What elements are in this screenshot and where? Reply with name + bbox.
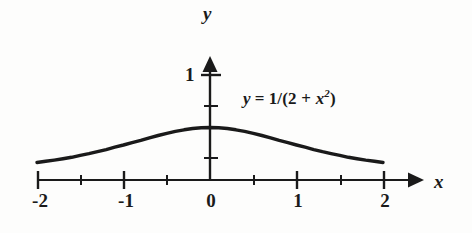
graph-svg bbox=[0, 0, 472, 233]
equation-equals: = bbox=[255, 89, 265, 108]
x-tick-label-neg2: -2 bbox=[28, 191, 52, 210]
x-tick-label-neg1: -1 bbox=[114, 191, 138, 210]
equation-annotation: y=1/(2 + x2) bbox=[243, 88, 336, 107]
y-axis-arrowhead bbox=[203, 56, 218, 72]
x-tick-label-1: 1 bbox=[286, 191, 310, 210]
x-axis-arrowhead bbox=[408, 173, 424, 188]
figure-canvas: y x 1 -2 -1 0 1 2 y=1/(2 + x2) bbox=[0, 0, 472, 233]
equation-rhs-prefix: 1/(2 + bbox=[269, 89, 316, 108]
equation-lhs: y bbox=[243, 89, 251, 108]
y-axis-label: y bbox=[203, 4, 211, 23]
x-tick-label-0: 0 bbox=[199, 191, 223, 210]
x-axis-label: x bbox=[434, 172, 444, 191]
x-tick-label-2: 2 bbox=[373, 191, 397, 210]
y-tick-label-1: 1 bbox=[185, 65, 195, 84]
equation-rhs-suffix: ) bbox=[330, 89, 336, 108]
